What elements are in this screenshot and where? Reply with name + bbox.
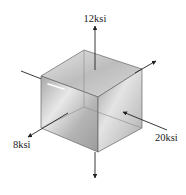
label-8ksi: 8ksi: [13, 139, 31, 150]
label-12ksi: 12ksi: [84, 13, 107, 24]
label-20ksi: 20ksi: [155, 132, 178, 143]
stress-cube-diagram: 12ksi 8ksi 20ksi: [0, 0, 186, 195]
arrow-back-right: [135, 61, 156, 73]
